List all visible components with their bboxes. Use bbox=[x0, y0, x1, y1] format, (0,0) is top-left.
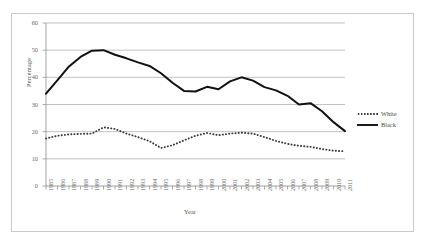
chart-legend: White Black bbox=[357, 108, 397, 130]
x-tick-label: 2008 bbox=[313, 179, 319, 191]
x-tick-label: 2003 bbox=[255, 179, 261, 191]
x-tick-label: 1989 bbox=[94, 179, 100, 191]
x-tick-label: 1985 bbox=[48, 179, 54, 191]
x-tick-label: 1996 bbox=[175, 179, 181, 191]
y-tick-label: 30 bbox=[22, 101, 38, 108]
x-tick-label: 1997 bbox=[186, 179, 192, 191]
x-tick-label: 2004 bbox=[267, 179, 273, 191]
legend-label-white: White bbox=[381, 110, 397, 117]
x-tick-label: 1994 bbox=[152, 179, 158, 191]
x-tick-label: 2007 bbox=[301, 179, 307, 191]
y-tick-label: 40 bbox=[22, 73, 38, 80]
solid-line-swatch-icon bbox=[357, 122, 378, 128]
x-tick-label: 1998 bbox=[198, 179, 204, 191]
x-tick-label: 2010 bbox=[336, 179, 342, 191]
x-tick-label: 1988 bbox=[83, 179, 89, 191]
legend-item-black: Black bbox=[357, 119, 397, 130]
x-tick-label: 1991 bbox=[117, 179, 123, 191]
y-tick-label: 50 bbox=[22, 46, 38, 53]
x-tick-label: 1990 bbox=[106, 179, 112, 191]
x-tick-label: 1992 bbox=[129, 179, 135, 191]
x-tick-label: 1986 bbox=[60, 179, 66, 191]
x-tick-label: 2006 bbox=[290, 179, 296, 191]
legend-item-white: White bbox=[357, 108, 397, 119]
x-tick-label: 2000 bbox=[221, 179, 227, 191]
x-tick-label: 1995 bbox=[163, 179, 169, 191]
y-tick-label: 20 bbox=[22, 128, 38, 135]
x-tick-label: 2005 bbox=[278, 179, 284, 191]
series-line-white bbox=[46, 127, 345, 151]
chart-figure: Percentage Year White Black 010203040506… bbox=[0, 0, 427, 245]
y-tick-label: 60 bbox=[22, 19, 38, 26]
x-tick-label: 2009 bbox=[324, 179, 330, 191]
y-tick-label: 0 bbox=[22, 182, 38, 189]
series-line-black bbox=[46, 50, 345, 131]
x-tick-label: 1993 bbox=[140, 179, 146, 191]
x-tick-label: 1987 bbox=[71, 179, 77, 191]
x-tick-label: 2011 bbox=[347, 179, 353, 191]
dotted-line-swatch-icon bbox=[357, 111, 378, 117]
x-tick-label: 2001 bbox=[232, 179, 238, 191]
legend-label-black: Black bbox=[381, 121, 396, 128]
x-axis-title: Year bbox=[0, 208, 380, 215]
x-tick-label: 2002 bbox=[244, 179, 250, 191]
y-tick-label: 10 bbox=[22, 155, 38, 162]
x-tick-label: 1999 bbox=[209, 179, 215, 191]
